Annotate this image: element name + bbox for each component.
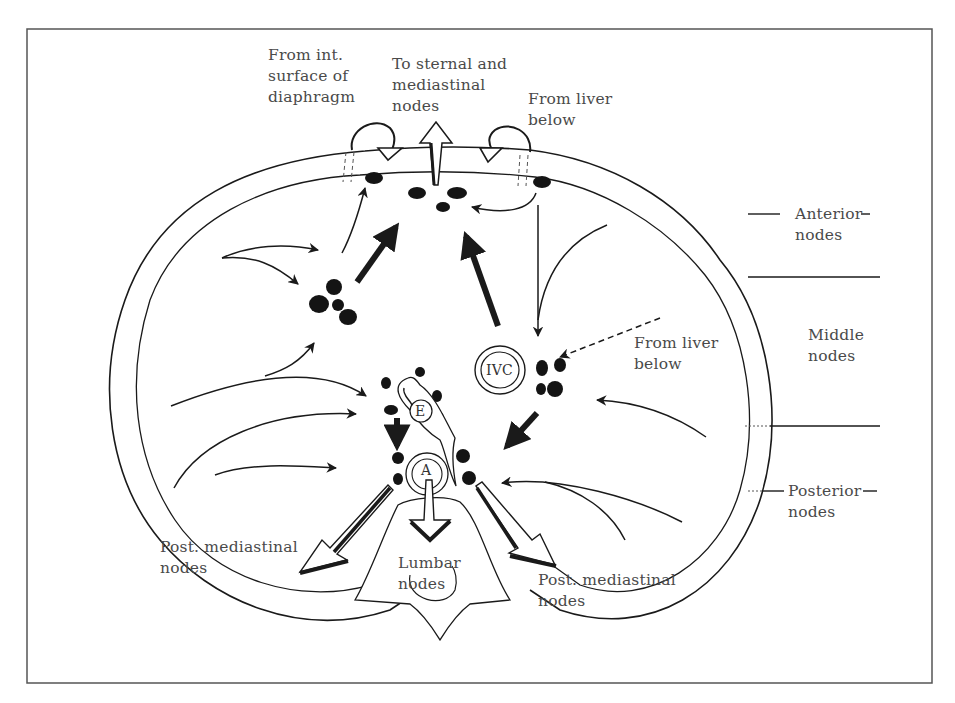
label-aorta: A [421,460,431,481]
label-middle-nodes: Middle nodes [808,325,864,367]
curl-arrow-left [352,123,395,150]
label-liver-top: From liver below [528,89,612,131]
label-post-mediastinal-left: Post. mediastinal nodes [160,537,298,579]
label-liver-inner: From liver below [634,333,718,375]
label-ivc: IVC [486,360,513,381]
middle-nodes-left [309,279,357,325]
label-lumbar-nodes: Lumbar nodes [398,553,461,595]
label-posterior-nodes: Posterior nodes [788,481,861,523]
thick-arrows [357,227,537,446]
arrow-to-sternal [420,122,452,185]
diagram-canvas: From int. surface of diaphragm To sterna… [0,0,955,703]
label-esophagus: E [415,401,425,422]
label-int-surface: From int. surface of diaphragm [268,45,355,108]
label-post-mediastinal-right: Post. mediastinal nodes [538,570,676,612]
label-anterior-nodes: Anterior nodes [795,204,862,246]
label-to-sternal: To sternal and mediastinal nodes [392,54,507,117]
middle-nodes-right [536,358,566,397]
